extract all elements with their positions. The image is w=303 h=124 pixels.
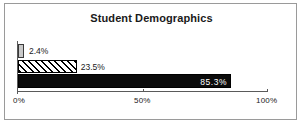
- chart-title: Student Demographics: [0, 12, 303, 25]
- bar-series-2: [18, 60, 77, 73]
- bar-value-label-2: 23.5%: [81, 62, 105, 72]
- bar-value-label-3: 85.3%: [0, 77, 227, 87]
- x-axis-label-100: 100%: [256, 96, 277, 106]
- x-axis-label-0: 0%: [13, 96, 25, 106]
- x-axis-tick-0: [17, 91, 18, 94]
- bar-series-1: [18, 44, 24, 58]
- chart-container: Student Demographics 2.4% 23.5% 85.3% 0%…: [0, 0, 303, 124]
- x-axis-label-50: 50%: [134, 96, 151, 106]
- bar-value-label-1: 2.4%: [29, 46, 48, 56]
- x-axis-tick-50: [143, 89, 144, 92]
- x-axis-tick-100: [267, 89, 268, 92]
